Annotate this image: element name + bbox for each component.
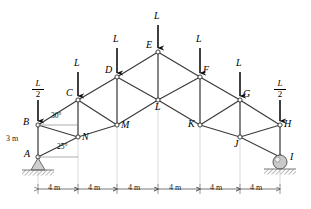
member-G-H: [240, 100, 280, 125]
node-label-M: M: [121, 120, 129, 130]
node-label-J: J: [234, 139, 238, 149]
angle-reference-lines: [38, 125, 78, 157]
joint-F: [198, 75, 202, 79]
node-label-F: F: [203, 65, 209, 75]
joint-M: [115, 123, 119, 127]
member-L-F: [158, 77, 200, 100]
member-C-D: [78, 77, 117, 100]
pin-support: [22, 158, 54, 176]
bay-dimension-label-2: 4 m: [88, 184, 100, 192]
joint-H: [278, 123, 282, 127]
member-K-J: [200, 125, 240, 137]
load-label-B: L 2: [31, 79, 45, 100]
joint-E: [156, 50, 160, 54]
dimension-line-row: [38, 184, 280, 194]
member-J-H: [240, 125, 280, 137]
node-label-I: I: [290, 152, 293, 162]
extension-lines: [38, 103, 280, 186]
angle-label-30: 30°: [51, 112, 62, 120]
node-label-A: A: [24, 149, 30, 159]
node-label-H: H: [284, 119, 291, 129]
load-label-D: L: [113, 34, 119, 44]
member-J-I: [240, 137, 280, 157]
angle-label-25: 25°: [57, 143, 68, 151]
node-label-G: G: [243, 89, 250, 99]
node-label-L: L: [155, 102, 161, 112]
member-D-E: [117, 52, 158, 77]
bay-dimension-label-6: 4 m: [250, 184, 262, 192]
load-label-B-denominator: 2: [31, 90, 45, 99]
height-dimension-label: 3 m: [6, 135, 18, 143]
member-K-G: [200, 100, 240, 125]
load-label-H: L 2: [273, 79, 287, 100]
member-B-N: [38, 125, 78, 137]
joint-K: [198, 123, 202, 127]
joint-C: [76, 98, 80, 102]
node-label-K: K: [188, 119, 195, 129]
joint-G: [238, 98, 242, 102]
joint-D: [115, 75, 119, 79]
bay-dimension-label-3: 4 m: [128, 184, 140, 192]
load-label-H-denominator: 2: [273, 90, 287, 99]
node-label-N: N: [82, 132, 89, 142]
member-E-F: [158, 52, 200, 77]
node-label-E: E: [146, 40, 152, 50]
member-D-L: [117, 77, 158, 100]
bay-dimension-label-4: 4 m: [169, 184, 181, 192]
load-label-H-numerator: L: [273, 79, 287, 88]
member-F-G: [200, 77, 240, 100]
load-label-B-numerator: L: [31, 79, 45, 88]
joint-J: [238, 135, 242, 139]
truss-diagram: A B C D E F G H I J K L M N L 2 L L L L …: [0, 0, 311, 209]
node-label-C: C: [66, 88, 73, 98]
node-label-B: B: [23, 117, 29, 127]
bay-dimension-label-5: 4 m: [210, 184, 222, 192]
node-label-D: D: [105, 65, 112, 75]
bay-dimension-label-1: 4 m: [48, 184, 60, 192]
load-label-C: L: [74, 58, 80, 68]
load-label-G: L: [236, 58, 242, 68]
load-label-E: L: [154, 11, 160, 21]
joint-N: [76, 135, 80, 139]
load-label-F: L: [196, 34, 202, 44]
member-C-M: [78, 100, 117, 125]
